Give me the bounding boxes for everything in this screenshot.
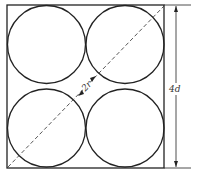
dimension-arrow-top-icon	[174, 6, 178, 12]
label-4d: 4d	[169, 84, 181, 94]
circle-top-left	[8, 6, 86, 84]
diagonal-arrow-icon	[78, 90, 84, 96]
dimension-arrow-bottom-icon	[174, 161, 178, 167]
circle-top-right	[86, 6, 164, 84]
circle-bottom-right	[86, 89, 164, 167]
